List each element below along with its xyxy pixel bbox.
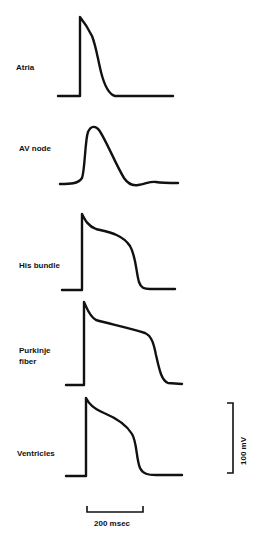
time-scale-bar — [87, 506, 143, 512]
action-potential-figure: Atria AV node His bundle Purkinje fiber … — [0, 0, 262, 538]
av-node-label: AV node — [19, 143, 51, 154]
atria-label: Atria — [16, 62, 34, 73]
av-node-trace — [60, 127, 178, 185]
purkinje-fiber-label: Purkinje fiber — [19, 345, 51, 367]
voltage-scale-label: 100 mV — [239, 437, 248, 465]
ventricles-label: Ventricles — [17, 448, 55, 459]
time-scale-label: 200 msec — [94, 518, 130, 529]
purkinje-trace — [66, 302, 182, 385]
atria-trace — [58, 17, 173, 96]
his-bundle-label: His bundle — [19, 260, 60, 271]
ventricles-trace — [66, 398, 182, 476]
voltage-scale-bar — [227, 403, 233, 473]
his-bundle-trace — [62, 214, 175, 290]
